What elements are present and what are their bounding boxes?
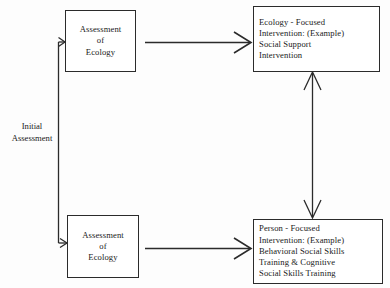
box-bottom-right-line-5: Social Skills Training [259, 268, 336, 279]
connector-intervention-bidirectional [304, 72, 321, 218]
box-bottom-left-line-1: Assessment [78, 230, 128, 241]
box-assessment-of-ecology-top[interactable]: Assessment of Ecology [65, 10, 136, 72]
box-person-focused-intervention[interactable]: Person - Focused Intervention: (Example)… [253, 219, 383, 284]
box-top-left-line-2: of [93, 35, 108, 46]
box-bottom-right-line-3: Behavioral Social Skills [259, 246, 344, 257]
box-bottom-right-line-2: Intervention: (Example) [259, 235, 344, 246]
box-top-right-line-2: Intervention: (Example) [259, 28, 344, 39]
box-bottom-left-line-3: Ecology [84, 252, 121, 263]
box-top-right-line-1: Ecology - Focused [259, 17, 325, 28]
label-initial-assessment: Initial Assessment [6, 120, 58, 144]
label-initial-assessment-line-2: Assessment [6, 132, 58, 144]
box-top-right-line-3: Social Support [259, 39, 311, 50]
box-bottom-right-line-1: Person - Focused [259, 223, 320, 234]
box-top-right-line-4: Intervention [259, 50, 302, 61]
box-bottom-left-line-2: of [95, 241, 110, 252]
label-initial-assessment-line-1: Initial [6, 120, 58, 132]
box-ecology-focused-intervention[interactable]: Ecology - Focused Intervention: (Example… [253, 6, 380, 72]
box-assessment-of-ecology-bottom[interactable]: Assessment of Ecology [67, 215, 139, 278]
box-top-left-line-3: Ecology [82, 47, 119, 58]
connector-top-horizontal-arrow [145, 32, 251, 53]
box-top-left-line-1: Assessment [76, 24, 126, 35]
connector-bottom-horizontal-arrow [145, 238, 251, 259]
box-bottom-right-line-4: Training & Cognitive [259, 257, 335, 268]
diagram-canvas: Initial Assessment Assessment of Ecology… [0, 0, 390, 288]
